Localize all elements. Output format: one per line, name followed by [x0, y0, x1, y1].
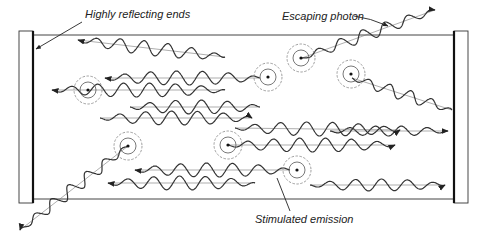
photon-wave-10 — [108, 176, 255, 190]
nucleus — [266, 75, 269, 78]
photon-wave-9 — [135, 163, 290, 177]
photon-axis — [235, 128, 400, 130]
photon-wave-8 — [228, 138, 395, 152]
escaping-photon-label: Escaping photon — [282, 10, 364, 22]
photon-wave-11 — [310, 179, 445, 191]
photon-wave-reflected-right — [352, 78, 452, 110]
stimulated-emission-label: Stimulated emission — [255, 213, 353, 225]
nucleus — [299, 56, 302, 59]
photon-wave-escape-lower-left — [20, 146, 128, 230]
nucleus — [86, 88, 89, 91]
atom-2 — [114, 132, 142, 160]
stimulated-emission-leader — [277, 178, 290, 211]
atom-6 — [337, 60, 365, 88]
nucleus — [226, 143, 229, 146]
highly-reflecting-ends-label: Highly reflecting ends — [85, 8, 190, 20]
left-mirror — [19, 31, 33, 203]
laser-cavity-diagram — [0, 0, 483, 243]
photon-axis — [20, 146, 128, 230]
photon-axis — [78, 40, 225, 57]
photon-wave-7 — [235, 122, 400, 136]
photon-axis — [352, 78, 452, 110]
photon-wave-6 — [100, 111, 252, 125]
atom-5 — [287, 44, 315, 72]
nucleus — [126, 144, 129, 147]
photon-wave-1 — [78, 38, 225, 59]
nucleus — [295, 168, 298, 171]
photon-waves — [20, 10, 452, 230]
photon-wave-3 — [52, 83, 225, 97]
right-mirror — [454, 31, 468, 203]
photon-wave-2 — [105, 71, 260, 85]
nucleus — [349, 72, 352, 75]
